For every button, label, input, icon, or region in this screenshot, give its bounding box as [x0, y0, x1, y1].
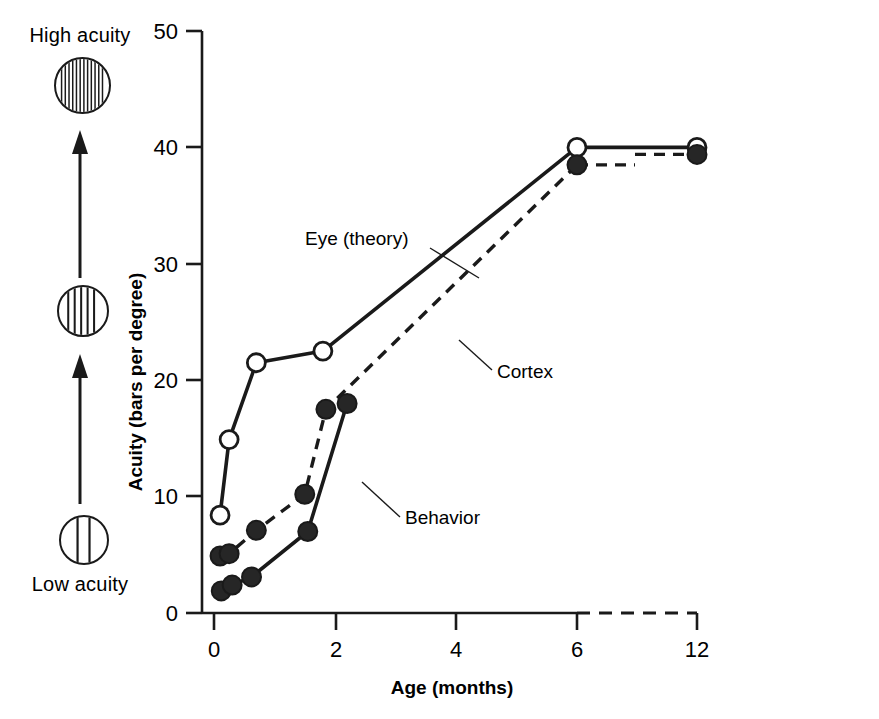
y-axis-title: Acuity (bars per degree) — [125, 273, 146, 492]
open-circle-marker — [211, 506, 229, 524]
acuity-development-figure: High acuity — [0, 0, 879, 719]
annotation-cortex: Cortex — [459, 340, 553, 382]
open-circle-marker — [568, 138, 586, 156]
annotation-eye-theory: Eye (theory) — [305, 228, 479, 278]
filled-circle-marker — [242, 567, 261, 586]
annotation-behavior: Behavior — [362, 482, 481, 528]
x-tick-0: 0 — [208, 637, 220, 662]
filled-circle-marker — [220, 544, 239, 563]
filled-circle-marker — [316, 400, 335, 419]
series-line — [220, 147, 577, 515]
x-tick-12: 12 — [685, 637, 709, 662]
x-axis-title: Age (months) — [391, 677, 513, 698]
x-axis: 0 2 4 6 12 — [202, 613, 709, 662]
series-eye-theory — [211, 138, 706, 524]
filled-circle-marker — [247, 521, 266, 540]
behavior-label: Behavior — [405, 507, 481, 528]
chart-plot-area: 50 40 30 20 10 0 0 2 4 6 — [0, 0, 879, 700]
x-tick-2: 2 — [330, 637, 342, 662]
open-circle-marker — [314, 342, 332, 360]
open-circle-marker — [247, 354, 265, 372]
eye-theory-label: Eye (theory) — [305, 228, 408, 249]
data-series-layer — [211, 138, 707, 600]
x-tick-6: 6 — [571, 637, 583, 662]
y-tick-50: 50 — [154, 19, 178, 44]
y-tick-40: 40 — [154, 135, 178, 160]
open-circle-marker — [220, 431, 238, 449]
filled-circle-marker — [223, 576, 242, 595]
y-tick-30: 30 — [154, 252, 178, 277]
y-tick-20: 20 — [154, 368, 178, 393]
y-tick-0: 0 — [166, 601, 178, 626]
x-tick-4: 4 — [450, 637, 462, 662]
filled-circle-marker — [298, 522, 317, 541]
y-tick-10: 10 — [154, 484, 178, 509]
filled-circle-marker — [338, 394, 357, 413]
cortex-label: Cortex — [497, 361, 553, 382]
filled-circle-marker — [295, 485, 314, 504]
series-cortex — [211, 145, 707, 566]
filled-circle-marker — [688, 145, 707, 164]
filled-circle-marker — [568, 155, 587, 174]
series-line — [221, 403, 347, 590]
y-axis: 50 40 30 20 10 0 — [154, 19, 202, 626]
